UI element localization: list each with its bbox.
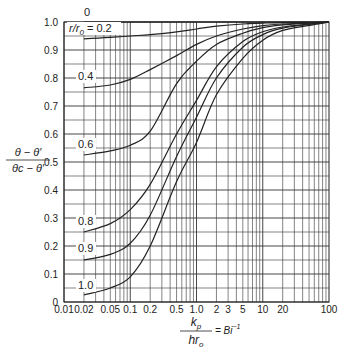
y-label-numerator: θ − θ′ — [15, 146, 42, 158]
x-tick-label: 0.5 — [170, 304, 184, 315]
curve-label: 0.4 — [78, 70, 93, 82]
x-label-suffix: = Bi−1 — [215, 323, 241, 336]
x-tick-label: 1.0 — [190, 304, 204, 315]
curve-labels: 0r/r0 = 0.20.40.60.80.91.0 — [67, 6, 121, 292]
y-tick-label: 0.4 — [44, 185, 58, 196]
chart-grid — [64, 22, 329, 302]
y-tick-label: 0.1 — [44, 269, 58, 280]
y-tick-label: 0.3 — [44, 213, 58, 224]
y-tick-label: 0.2 — [44, 241, 58, 252]
y-tick-label: 0.7 — [44, 101, 58, 112]
x-tick-label: 0.02 — [74, 304, 94, 315]
y-axis-label: θ − θ′ θc − θ′ — [6, 146, 50, 174]
chart-curves — [84, 22, 329, 295]
x-tick-label: 100 — [321, 304, 338, 315]
y-label-denominator: θc − θ′ — [12, 162, 45, 174]
curve-r-3 — [84, 22, 329, 155]
y-tick-label: 0 — [52, 297, 58, 308]
curve-label: 0.6 — [78, 138, 93, 150]
curve-r-4 — [84, 22, 329, 232]
y-axis-tick-labels: 00.10.20.30.40.50.60.70.80.91.0 — [44, 17, 58, 308]
x-tick-label: 3 — [225, 304, 231, 315]
x-axis-tick-labels: 0.010.020.050.10.20.51.02351020100 — [54, 304, 338, 315]
x-axis-label: kp hro = Bi−1 — [180, 315, 241, 349]
curve-label: 0.8 — [78, 215, 93, 227]
x-tick-label: 2 — [214, 304, 220, 315]
y-tick-label: 1.0 — [44, 17, 58, 28]
x-tick-label: 0.05 — [101, 304, 121, 315]
y-tick-label: 0.6 — [44, 129, 58, 140]
position-correction-chart: 0.010.020.050.10.20.51.02351020100 00.10… — [0, 0, 344, 354]
y-tick-label: 0.9 — [44, 45, 58, 56]
x-label-numerator: kp — [191, 315, 202, 331]
x-tick-label: 0.1 — [123, 304, 137, 315]
x-tick-label: 10 — [257, 304, 269, 315]
y-tick-label: 0.8 — [44, 73, 58, 84]
x-tick-label: 5 — [240, 304, 246, 315]
curve-label: 0 — [84, 6, 90, 18]
curve-label: 1.0 — [78, 279, 93, 291]
curve-r-5 — [84, 22, 329, 260]
x-tick-label: 20 — [277, 304, 289, 315]
curve-label: 0.9 — [78, 242, 93, 254]
x-tick-label: 0.2 — [143, 304, 157, 315]
y-tick-label: 0.5 — [44, 157, 58, 168]
x-label-denominator: hro — [188, 333, 204, 349]
curve-r-6 — [84, 22, 329, 295]
